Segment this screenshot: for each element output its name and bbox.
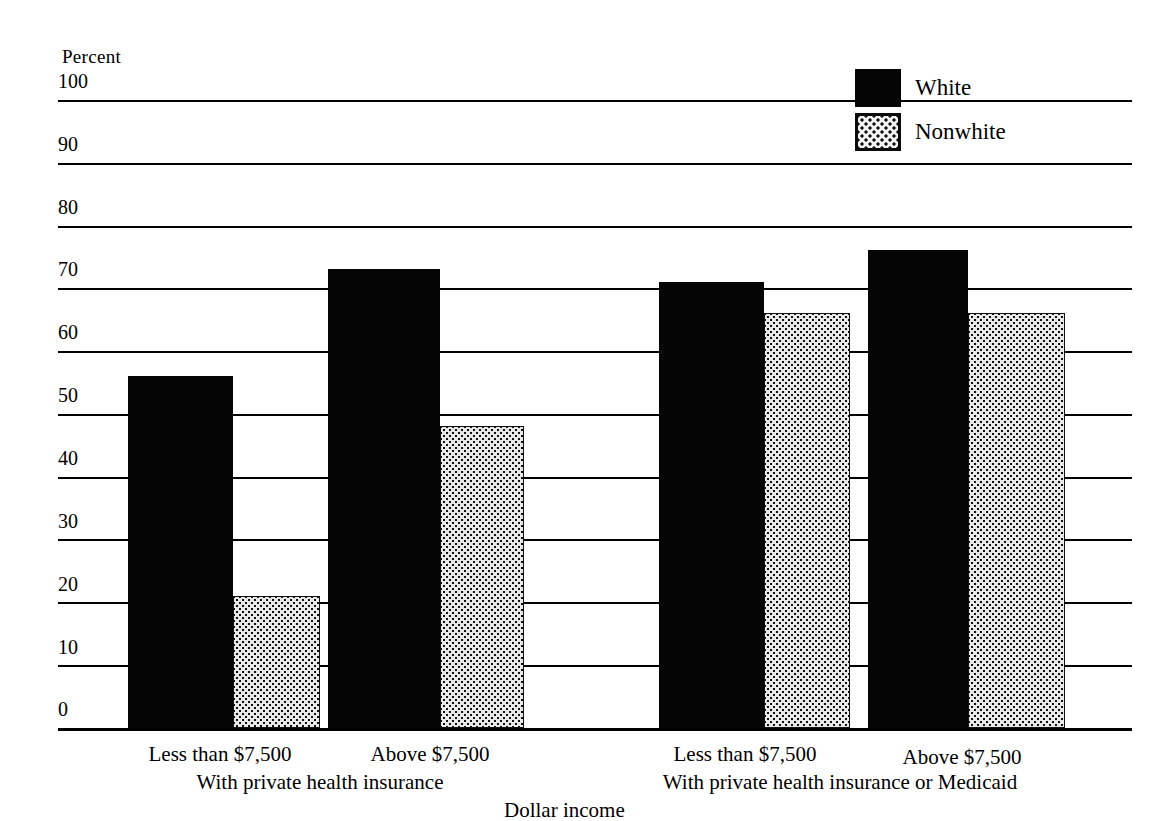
bar-white-lt7500-private (128, 376, 233, 728)
legend-label-nonwhite: Nonwhite (915, 119, 1006, 145)
legend-label-white: White (915, 75, 971, 101)
category-label-g1-above7500: Above $7,500 (330, 742, 530, 767)
plot-area (0, 100, 1162, 728)
bar-nonwhite-lt7500-medicaid (764, 313, 850, 728)
bar-white-above7500-medicaid (868, 250, 968, 728)
legend-swatch-nonwhite-icon (855, 113, 901, 151)
legend-item-white: White (855, 66, 1105, 110)
bar-white-above7500-private (328, 269, 440, 728)
bar-chart: Percent 100 90 80 70 60 50 40 30 20 10 0… (0, 0, 1162, 821)
bar-nonwhite-above7500-medicaid (968, 313, 1065, 728)
legend: White Nonwhite (855, 66, 1105, 154)
group-caption-private-insurance: With private health insurance (100, 770, 540, 795)
bar-nonwhite-lt7500-private (233, 596, 320, 728)
category-label-g2-above7500: Above $7,500 (862, 745, 1062, 770)
group-caption-private-insurance-or-medicaid: With private health insurance or Medicai… (580, 770, 1100, 795)
legend-swatch-white-icon (855, 69, 901, 107)
y-axis-unit-label: Percent (62, 46, 121, 68)
category-label-g1-lt7500: Less than $7,500 (105, 742, 335, 767)
y-tick-label-100: 100 (58, 71, 104, 91)
category-label-g2-lt7500: Less than $7,500 (630, 742, 860, 767)
x-axis-line (58, 728, 1132, 731)
bar-nonwhite-above7500-private (440, 426, 524, 728)
bar-white-lt7500-medicaid (659, 282, 764, 728)
x-axis-title: Dollar income (504, 798, 625, 821)
legend-item-nonwhite: Nonwhite (855, 110, 1105, 154)
